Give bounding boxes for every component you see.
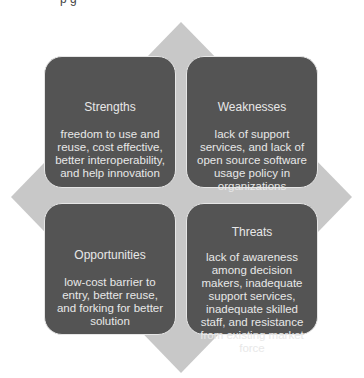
threats-title: Threats	[232, 226, 273, 239]
opportunities-title: Opportunities	[74, 249, 145, 262]
weaknesses-body: lack of support services, and lack of op…	[193, 128, 311, 193]
strengths-title: Strengths	[84, 101, 135, 114]
threats-box: Threats lack of awareness among decision…	[186, 203, 318, 335]
weaknesses-title: Weaknesses	[218, 101, 286, 114]
opportunities-box: Opportunities low-cost barrier to entry,…	[44, 203, 176, 335]
strengths-box: Strengths freedom to use and reuse, cost…	[44, 56, 176, 188]
opportunities-body: low-cost barrier to entry, better reuse,…	[51, 276, 169, 328]
weaknesses-box: Weaknesses lack of support services, and…	[186, 56, 318, 188]
threats-body: lack of awareness among decision makers,…	[193, 251, 311, 355]
strengths-body: freedom to use and reuse, cost effective…	[51, 128, 169, 180]
